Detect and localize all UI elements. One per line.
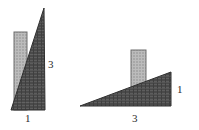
figure-canvas bbox=[0, 0, 199, 130]
left-triangle-height-label: 3 bbox=[48, 59, 54, 70]
right-figure-group bbox=[79, 50, 173, 106]
right-triangle-base-label: 3 bbox=[132, 113, 138, 124]
geometry-figure: 1 3 3 1 bbox=[0, 0, 199, 130]
right-triangle bbox=[79, 72, 173, 106]
left-figure-group bbox=[10, 8, 48, 110]
right-triangle-height-label: 1 bbox=[177, 84, 183, 95]
left-triangle-base-label: 1 bbox=[25, 113, 31, 124]
